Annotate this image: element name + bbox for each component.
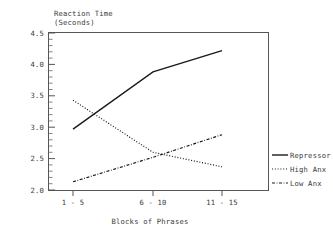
y-tick-label-3.0: 3.0 <box>30 123 44 132</box>
legend-label-repressor: Repressor <box>290 151 331 160</box>
series-line-high-anx <box>73 100 222 167</box>
plot-frame <box>49 33 269 191</box>
y-tick-label-2.5: 2.5 <box>30 154 44 163</box>
y-tick-label-4.5: 4.5 <box>30 29 44 38</box>
legend-item-high-anx[interactable]: High Anx <box>272 165 327 174</box>
x-tick-label-3: 11 - 15 <box>206 198 238 207</box>
legend-item-low-anx[interactable]: Low Anx <box>272 179 322 188</box>
y-axis-ticks <box>49 33 56 190</box>
legend-item-repressor[interactable]: Repressor <box>272 151 331 160</box>
y-tick-label-2.0: 2.0 <box>30 186 44 195</box>
y-tick-label-3.5: 3.5 <box>30 91 44 100</box>
y-axis-tick-labels: 4.5 4.0 3.5 3.0 2.5 2.0 <box>30 29 44 195</box>
x-axis-tick-labels: 1 - 5 6 - 10 11 - 15 <box>62 198 238 207</box>
chart-legend: Repressor High Anx Low Anx <box>272 151 331 188</box>
reaction-time-line-chart: Reaction Time (Seconds) <box>0 0 333 233</box>
x-axis-title: Blocks of Phrases <box>112 217 189 226</box>
legend-label-high-anx: High Anx <box>290 165 327 174</box>
x-tick-label-2: 6 - 10 <box>139 198 166 207</box>
y-axis-minor-ticks <box>49 39 53 183</box>
x-axis-ticks <box>73 191 222 197</box>
chart-title-line1: Reaction Time <box>54 9 113 18</box>
chart-container: Reaction Time (Seconds) <box>0 0 333 233</box>
y-tick-label-4.0: 4.0 <box>30 60 44 69</box>
series-line-low-anx <box>73 135 222 182</box>
x-tick-label-1: 1 - 5 <box>62 198 85 207</box>
legend-label-low-anx: Low Anx <box>290 179 322 188</box>
series-line-repressor <box>73 51 222 130</box>
chart-title-line2: (Seconds) <box>54 18 95 27</box>
